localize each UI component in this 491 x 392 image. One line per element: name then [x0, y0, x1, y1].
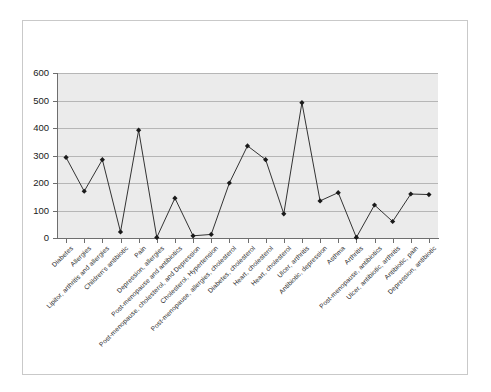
x-axis-tick-mark	[229, 239, 230, 243]
x-axis-tick-mark	[356, 239, 357, 243]
gridline	[57, 101, 438, 102]
gridline	[57, 183, 438, 184]
x-axis-tick-mark	[193, 239, 194, 243]
x-axis-tick-mark	[338, 239, 339, 243]
gridline	[57, 73, 438, 74]
y-axis-tick-label: 200	[13, 178, 49, 188]
y-axis-tick-label: 600	[13, 68, 49, 78]
x-axis-tick-mark	[284, 239, 285, 243]
x-axis-line	[57, 238, 439, 239]
x-axis-tick-mark	[266, 239, 267, 243]
x-axis-tick-mark	[248, 239, 249, 243]
x-axis-tick-mark	[121, 239, 122, 243]
y-axis-tick-label: 400	[13, 123, 49, 133]
x-axis-tick-mark	[302, 239, 303, 243]
y-axis-line	[57, 73, 58, 239]
gridline	[57, 211, 438, 212]
gridline	[57, 128, 438, 129]
x-axis-tick-mark	[139, 239, 140, 243]
x-axis-tick-mark	[84, 239, 85, 243]
x-axis-tick-mark	[66, 239, 67, 243]
gridline	[57, 156, 438, 157]
x-axis-tick-mark	[157, 239, 158, 243]
x-axis-tick-mark	[102, 239, 103, 243]
y-axis-tick-label: 300	[13, 151, 49, 161]
x-axis-tick-mark	[375, 239, 376, 243]
x-axis-tick-mark	[211, 239, 212, 243]
x-axis-tick-mark	[320, 239, 321, 243]
x-axis-tick-mark	[393, 239, 394, 243]
chart-container: 0100200300400500600 DiabetesAllergiesLip…	[0, 0, 491, 392]
x-axis-tick-mark	[175, 239, 176, 243]
y-axis-tick-label: 100	[13, 206, 49, 216]
y-axis-tick-label: 500	[13, 96, 49, 106]
y-axis-tick-label: 0	[13, 233, 49, 243]
x-axis-tick-mark	[429, 239, 430, 243]
x-axis-tick-mark	[411, 239, 412, 243]
